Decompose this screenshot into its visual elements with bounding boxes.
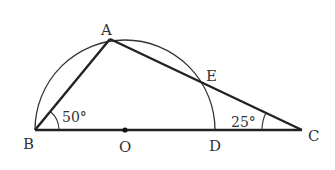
label-d: D	[209, 137, 221, 155]
angle-label-b: 50°	[62, 109, 87, 125]
label-a: A	[100, 21, 112, 39]
label-o: O	[119, 138, 131, 156]
geometry-diagram: A E B O D C 50° 25°	[0, 0, 335, 170]
angle-arc-b	[50, 112, 59, 131]
angle-label-c: 25°	[231, 114, 256, 130]
label-e: E	[206, 67, 217, 85]
angle-arc-c	[262, 113, 266, 130]
center-point-o	[122, 127, 127, 132]
label-c: C	[308, 127, 319, 145]
label-b: B	[23, 135, 34, 153]
